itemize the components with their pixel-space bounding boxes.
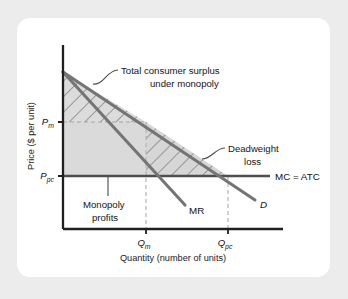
x-axis-title: Quantity (number of units): [120, 253, 226, 263]
pm-sub: m: [48, 122, 54, 129]
annotation-monopoly-profits-line2: profits: [92, 212, 118, 223]
figure-card: Price ($ per unit) Quantity (number of u…: [17, 18, 330, 277]
tick-label-qpc: Qpc: [218, 237, 233, 251]
annotation-monopoly-profits-line1: Monopoly: [83, 199, 125, 210]
qpc-sub: pc: [224, 243, 233, 251]
tick-label-ppc: Ppc: [40, 170, 54, 184]
leader-line-consumer-surplus: [93, 70, 118, 84]
y-axis-title: Price ($ per unit): [26, 102, 36, 170]
region-deadweight-loss: [146, 122, 228, 176]
curve-label-mc-atc: MC = ATC: [275, 171, 320, 182]
leader-line-deadweight-loss: [202, 148, 225, 159]
annotation-deadweight-loss-line2: loss: [244, 156, 261, 167]
annotation-consumer-surplus-line2: under monopoly: [150, 78, 219, 89]
curve-label-mr: MR: [189, 205, 204, 216]
curve-label-demand: D: [260, 199, 267, 210]
annotation-consumer-surplus-line1: Total consumer surplus: [121, 65, 220, 76]
qm-sub: m: [145, 243, 151, 250]
ppc-sub: pc: [46, 176, 55, 184]
tick-label-qm: Qm: [137, 237, 150, 250]
annotation-deadweight-loss-line1: Deadweight: [228, 143, 279, 154]
monopoly-deadweight-loss-chart: Price ($ per unit) Quantity (number of u…: [17, 18, 330, 277]
tick-label-pm: Pm: [42, 116, 54, 129]
